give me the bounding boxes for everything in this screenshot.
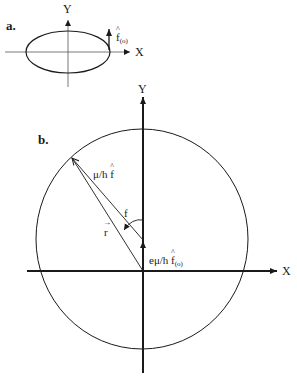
panel-a-x-label: X: [135, 46, 144, 58]
diagram-canvas: [0, 0, 297, 382]
panel-b-x-label: X: [282, 265, 291, 277]
f-hat: f: [171, 255, 175, 266]
panel-b-label: b.: [38, 133, 48, 146]
e-mu-h-text: eμ/h: [149, 254, 171, 266]
mu-h-f-label: μ/h f: [93, 169, 114, 180]
panel-a-label: a.: [6, 19, 16, 32]
panel-a: [5, 20, 130, 87]
mu-h-text: μ/h: [93, 168, 110, 180]
f-hat: f: [110, 169, 114, 180]
panel-a-y-label: Y: [63, 3, 72, 15]
orbit-diagram: a. Y X f(o) b. Y X μ/h f f r eμ/h f(o): [0, 0, 297, 382]
r-vec: r: [104, 227, 108, 238]
angle-f-label: f: [124, 208, 128, 219]
e-mu-h-f0-label: eμ/h f(o): [149, 255, 183, 268]
f-subscript: (o): [175, 260, 183, 268]
panel-a-f0-label: f(o): [116, 32, 128, 45]
panel-b: [27, 97, 277, 373]
f-subscript: (o): [120, 37, 128, 45]
r-vector-label: r: [104, 227, 108, 238]
panel-b-y-label: Y: [138, 83, 147, 95]
f-hat: f: [116, 32, 120, 43]
